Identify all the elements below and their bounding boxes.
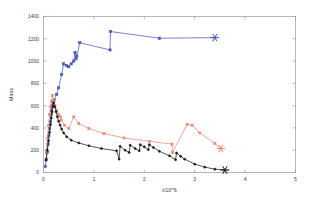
data-point [116,150,118,152]
series-line-black-series [46,103,225,170]
data-point [49,131,51,133]
y-tick-label: 1400 [28,13,39,19]
data-point [58,120,60,122]
data-point [50,124,52,126]
data-point [56,116,58,118]
data-point [129,144,131,146]
data-point [118,158,120,160]
data-point [139,144,141,146]
x-tick-label: 0 [42,176,45,182]
y-axis-title: Mass [8,88,14,101]
data-point [63,132,65,134]
data-point [73,60,75,62]
y-tick-label: 1200 [28,36,39,42]
series-line-red-series [46,96,221,153]
data-point [214,168,216,170]
y-tick-label: 800 [31,80,40,86]
data-point [214,143,216,145]
data-point [55,111,57,113]
data-point [103,133,105,135]
plot-frame [44,17,296,173]
data-point [194,163,196,165]
data-point [100,148,102,150]
data-point [186,124,188,126]
data-point [148,144,150,146]
data-point [78,142,80,144]
data-point [51,95,53,97]
data-point [70,63,72,65]
axes [44,17,296,173]
x-tick-label: 3 [193,176,196,182]
y-tick-label: 400 [31,125,40,131]
data-point [175,159,177,161]
data-point [176,152,178,154]
asterisk-marker-blue-series [211,34,219,41]
data-point [158,37,160,39]
data-point [75,58,77,60]
data-point [61,73,63,75]
x-tick-label: 2 [143,176,146,182]
data-point [66,136,68,138]
x-tick-label: 5 [294,176,297,182]
series-red-series [45,95,225,154]
data-point [78,122,80,124]
data-point [147,149,149,151]
data-point [88,127,90,129]
data-series [44,30,229,173]
data-point [79,42,81,44]
data-point [68,66,70,68]
data-point [48,125,50,127]
plot-canvas: 0200400600800100012001400012345t/10^6Mas… [0,0,314,203]
data-point [61,128,63,130]
data-point [50,106,52,108]
data-point [56,93,58,95]
data-point [53,102,55,104]
data-point [74,52,76,54]
data-point [48,140,50,142]
data-point [148,140,150,142]
y-tick-label: 0 [36,169,39,175]
data-point [49,114,51,116]
data-point [58,114,60,116]
data-point [50,117,52,119]
data-point [184,158,186,160]
series-black-series [45,102,229,174]
data-point [199,132,201,134]
data-point [65,64,67,66]
data-point [64,124,66,126]
y-tick-label: 600 [31,103,40,109]
x-tick-label: 1 [93,176,96,182]
data-point [54,106,56,108]
data-point [119,145,121,147]
data-point [171,143,173,145]
data-point [51,111,53,113]
data-point [172,151,174,153]
data-point [123,137,125,139]
data-point [45,159,47,161]
data-point [59,116,61,118]
data-point [204,166,206,168]
x-axis-title: t/10^6 [162,187,177,193]
data-point [44,165,46,167]
data-point [73,116,75,118]
data-point [169,155,171,157]
x-tick-label: 4 [244,176,247,182]
data-point [134,148,136,150]
data-point [47,137,49,139]
data-point [59,124,61,126]
y-tick-label: 1000 [28,58,39,64]
data-point [109,49,111,51]
data-point [152,146,154,148]
data-point [46,149,48,151]
data-point [60,119,62,121]
data-point [63,63,65,65]
data-point [180,155,182,157]
data-point [58,87,60,89]
y-tick-label: 200 [31,147,40,153]
data-point [76,55,78,57]
data-point [70,139,72,141]
data-point [109,30,111,32]
data-point [68,127,70,129]
data-point [88,145,90,147]
data-point [138,150,140,152]
